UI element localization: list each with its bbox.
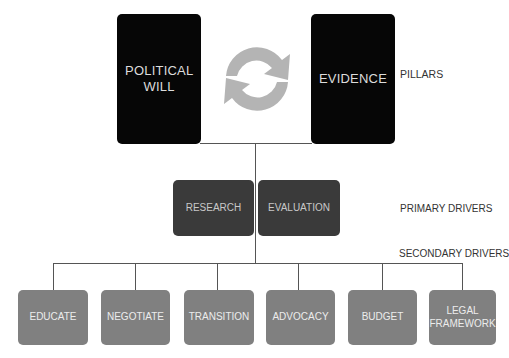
secondary-legal-framework: LEGAL FRAMEWORK	[429, 290, 496, 345]
secondary-budget: BUDGET	[348, 290, 417, 345]
pillar-political-will: POLITICAL WILL	[117, 14, 201, 144]
connector-transition	[217, 263, 218, 290]
connector-legal-framework	[462, 263, 463, 290]
connector-pillars-vertical	[255, 143, 256, 263]
connector-negotiate	[135, 263, 136, 290]
secondary-negotiate: NEGOTIATE	[101, 290, 170, 345]
connector-secondary-horizontal	[53, 263, 463, 264]
primary-research: RESEARCH	[173, 180, 254, 236]
primary-research-label: RESEARCH	[186, 202, 242, 215]
secondary-advocacy: ADVOCACY	[266, 290, 335, 345]
pillars-level-label: PILLARS	[400, 68, 443, 80]
secondary-transition: TRANSITION	[184, 290, 254, 345]
secondary-legal-framework-label: LEGAL FRAMEWORK	[429, 305, 495, 330]
pillar-political-will-label: POLITICAL WILL	[125, 63, 193, 96]
secondary-advocacy-label: ADVOCACY	[272, 311, 328, 324]
connector-advocacy	[298, 263, 299, 290]
primary-evaluation-label: EVALUATION	[268, 202, 330, 215]
secondary-drivers-level-label: SECONDARY DRIVERS	[399, 248, 509, 259]
primary-drivers-level-label: PRIMARY DRIVERS	[400, 203, 492, 214]
secondary-educate-label: EDUCATE	[29, 311, 76, 324]
primary-evaluation: EVALUATION	[258, 180, 340, 236]
secondary-transition-label: TRANSITION	[189, 311, 250, 324]
pillar-evidence-label: EVIDENCE	[319, 71, 387, 87]
connector-educate	[53, 263, 54, 290]
secondary-negotiate-label: NEGOTIATE	[107, 311, 164, 324]
refresh-cycle-icon	[212, 36, 302, 122]
connector-budget	[382, 263, 383, 290]
secondary-educate: EDUCATE	[18, 290, 88, 345]
connector-pillars-horizontal	[200, 143, 312, 144]
pillar-evidence: EVIDENCE	[311, 14, 395, 144]
secondary-budget-label: BUDGET	[362, 311, 404, 324]
